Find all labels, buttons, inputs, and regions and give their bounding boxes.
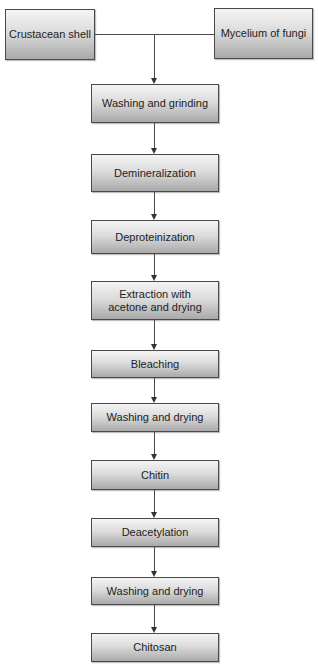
- node-deacetylation: Deacetylation: [91, 518, 219, 547]
- connector-line: [154, 34, 155, 78]
- connector-line: [154, 254, 155, 275]
- node-demineralization: Demineralization: [91, 154, 219, 192]
- node-mycelium-of-fungi: Mycelium of fungi: [214, 8, 313, 59]
- node-chitosan: Chitosan: [91, 633, 219, 662]
- connector-line: [154, 547, 155, 571]
- connector-line: [154, 192, 155, 214]
- node-washing-grinding: Washing and grinding: [91, 84, 219, 123]
- connector-line: [154, 378, 155, 397]
- node-crustacean-shell: Crustacean shell: [5, 9, 95, 60]
- connector-line: [154, 320, 155, 344]
- connector-line: [154, 123, 155, 148]
- connector-line: [154, 490, 155, 512]
- node-chitin: Chitin: [91, 460, 219, 490]
- node-bleaching: Bleaching: [91, 350, 219, 378]
- node-extraction: Extraction with acetone and drying: [91, 281, 219, 320]
- node-washing-drying-2: Washing and drying: [91, 577, 219, 605]
- node-deproteinization: Deproteinization: [91, 220, 219, 254]
- connector-line: [154, 432, 155, 454]
- node-washing-drying-1: Washing and drying: [91, 403, 219, 432]
- connector-line: [154, 605, 155, 627]
